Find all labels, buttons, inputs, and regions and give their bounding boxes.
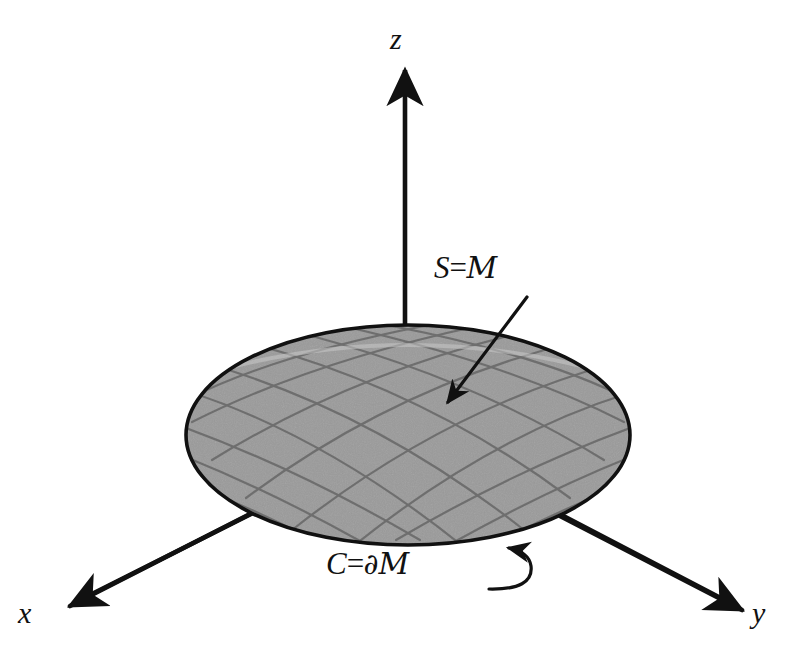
axis-label-z: z	[390, 24, 402, 54]
axis-y-arrow	[560, 516, 742, 610]
surface-label: S=M	[434, 252, 497, 283]
axis-label-y: y	[752, 598, 765, 628]
surface-label-symbol: S	[434, 250, 450, 285]
figure-canvas: z x y S=M C=∂M	[0, 0, 811, 663]
axis-x-arrow	[70, 514, 250, 606]
boundary-label-operator: ∂	[364, 547, 379, 581]
boundary-label-equals: =	[347, 546, 364, 581]
boundary-label-symbol: C	[326, 546, 347, 581]
boundary-label-arrow	[489, 548, 531, 589]
boundary-label-set: M	[379, 546, 410, 581]
surface-label-equals: =	[450, 250, 467, 285]
boundary-label: C=∂M	[326, 548, 409, 579]
surface-label-set: M	[466, 250, 497, 285]
axis-label-x: x	[18, 598, 31, 628]
